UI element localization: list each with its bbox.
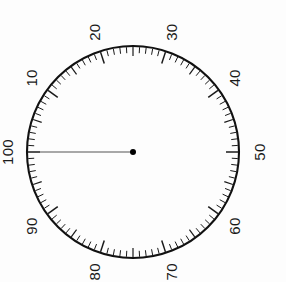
- minor-tick: [88, 242, 91, 247]
- minor-tick: [38, 194, 43, 197]
- minor-tick: [82, 239, 85, 244]
- minor-tick: [107, 50, 108, 56]
- minor-tick: [56, 220, 60, 224]
- minor-tick: [158, 248, 159, 254]
- minor-tick: [30, 132, 36, 133]
- tick-label-10: 10: [23, 69, 40, 86]
- minor-tick: [220, 200, 225, 203]
- tick-label-90: 90: [23, 217, 40, 234]
- major-tick: [162, 240, 166, 251]
- minor-tick: [152, 249, 153, 255]
- minor-tick: [113, 49, 114, 55]
- minor-tick: [82, 60, 85, 65]
- minor-tick: [152, 49, 153, 55]
- minor-tick: [205, 220, 209, 224]
- minor-tick: [120, 48, 121, 54]
- minor-tick: [175, 57, 178, 62]
- minor-tick: [94, 244, 96, 250]
- minor-tick: [107, 248, 108, 254]
- minor-tick: [229, 177, 235, 178]
- tick-label-30: 30: [163, 24, 180, 41]
- gauge-dial: 102030405060708090100: [0, 0, 286, 282]
- center-hub-dot: [130, 149, 136, 155]
- minor-tick: [44, 205, 49, 208]
- dial-center-hub: [130, 149, 136, 155]
- minor-tick: [230, 132, 236, 133]
- minor-tick: [169, 54, 171, 60]
- minor-tick: [30, 171, 36, 172]
- minor-tick: [186, 63, 189, 68]
- minor-tick: [41, 200, 46, 203]
- minor-tick: [201, 224, 205, 228]
- minor-tick: [29, 164, 35, 165]
- medium-tick: [224, 120, 233, 123]
- minor-tick: [52, 85, 57, 89]
- minor-tick: [229, 126, 235, 127]
- tick-label-100: 100: [0, 139, 16, 165]
- major-tick: [48, 90, 58, 97]
- medium-tick: [224, 182, 233, 185]
- minor-tick: [38, 107, 43, 110]
- minor-tick: [169, 244, 171, 250]
- minor-tick: [31, 177, 37, 178]
- medium-tick: [33, 120, 42, 123]
- minor-tick: [181, 60, 184, 65]
- minor-tick: [66, 71, 70, 76]
- tick-label-50: 50: [251, 143, 268, 160]
- gauge-svg: 102030405060708090100: [0, 0, 286, 282]
- major-tick: [162, 52, 166, 63]
- minor-tick: [186, 236, 189, 241]
- minor-tick: [225, 113, 231, 115]
- minor-tick: [231, 164, 237, 165]
- minor-tick: [77, 236, 80, 241]
- minor-tick: [145, 48, 146, 54]
- medium-tick: [33, 182, 42, 185]
- minor-tick: [66, 228, 70, 233]
- minor-tick: [61, 75, 65, 79]
- minor-tick: [29, 139, 35, 140]
- minor-tick: [31, 126, 37, 127]
- minor-tick: [217, 96, 222, 99]
- major-tick: [101, 240, 105, 251]
- minor-tick: [225, 188, 231, 190]
- minor-tick: [94, 54, 96, 60]
- minor-tick: [113, 249, 114, 255]
- major-tick: [208, 90, 218, 97]
- minor-tick: [209, 215, 214, 219]
- major-tick: [101, 52, 105, 63]
- minor-tick: [88, 57, 91, 62]
- minor-tick: [223, 107, 228, 110]
- tick-label-80: 80: [86, 263, 103, 280]
- major-tick: [208, 207, 218, 214]
- medium-tick: [189, 230, 194, 237]
- minor-tick: [217, 205, 222, 208]
- minor-tick: [205, 80, 209, 84]
- minor-tick: [35, 113, 41, 115]
- minor-tick: [41, 101, 46, 104]
- medium-tick: [189, 67, 194, 74]
- minor-tick: [223, 194, 228, 197]
- minor-tick: [77, 63, 80, 68]
- tick-label-70: 70: [163, 263, 180, 280]
- minor-tick: [44, 96, 49, 99]
- minor-tick: [209, 85, 214, 89]
- tick-label-60: 60: [226, 217, 243, 234]
- medium-tick: [71, 67, 76, 74]
- medium-tick: [71, 230, 76, 237]
- minor-tick: [158, 50, 159, 56]
- minor-tick: [35, 188, 41, 190]
- tick-label-40: 40: [226, 69, 243, 86]
- minor-tick: [230, 171, 236, 172]
- minor-tick: [175, 242, 178, 247]
- minor-tick: [201, 75, 205, 79]
- minor-tick: [52, 215, 57, 219]
- tick-label-20: 20: [86, 24, 103, 41]
- minor-tick: [181, 239, 184, 244]
- major-tick: [48, 207, 58, 214]
- minor-tick: [120, 250, 121, 256]
- minor-tick: [61, 224, 65, 228]
- minor-tick: [220, 101, 225, 104]
- minor-tick: [231, 139, 237, 140]
- minor-tick: [196, 228, 200, 233]
- minor-tick: [196, 71, 200, 76]
